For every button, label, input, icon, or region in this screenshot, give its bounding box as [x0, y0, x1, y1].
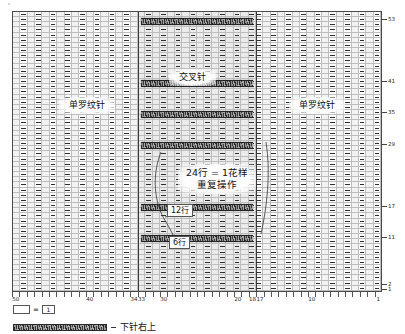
legend-dash-icon — [111, 327, 116, 328]
x-axis-tick-label: 33 — [138, 296, 145, 302]
blank-stitch-swatch — [13, 305, 30, 314]
x-axis-tick-label: 20 — [234, 296, 241, 302]
y-tick — [382, 19, 387, 20]
one-stitch-swatch: 1 — [42, 305, 55, 314]
x-axis-tick-label: 1 — [377, 296, 381, 302]
y-axis-tick-label: 41 — [388, 78, 395, 84]
label-left-rib: 单罗纹针 — [59, 97, 115, 114]
y-tick — [382, 81, 387, 82]
x-axis-labels: 5040343330201817101 — [12, 296, 382, 306]
artifact-speck — [8, 3, 10, 5]
y-axis-tick-label: 17 — [388, 203, 395, 209]
cable-stitch-swatch — [13, 324, 107, 331]
legend-cable-stitch: 下针右上 — [13, 322, 156, 332]
y-axis-tick-label: 35 — [388, 109, 395, 115]
label-right-rib: 单罗纹针 — [289, 97, 345, 114]
y-axis: 53413529171121 — [382, 11, 405, 292]
y-axis-tick-label: 29 — [388, 141, 395, 147]
x-axis-tick-label: 17 — [256, 296, 263, 302]
y-axis-tick-label: 11 — [388, 234, 395, 240]
x-axis-tick-label: 50 — [12, 296, 19, 302]
equals-sign: = — [33, 306, 39, 314]
label-repeat: 24行 = 1花样 重复操作 — [178, 164, 256, 194]
y-tick — [382, 284, 387, 285]
y-axis-tick-label: 53 — [388, 16, 395, 22]
label-repeat-line2: 重复操作 — [186, 179, 248, 191]
x-axis: 5040343330201817101 — [12, 292, 382, 298]
legend-blank-stitch: = 1 — [13, 305, 55, 314]
x-axis-tick-label: 18 — [249, 296, 256, 302]
x-axis-tick-label: 34 — [131, 296, 138, 302]
y-axis-tick-label: 1 — [388, 286, 392, 292]
x-axis-tick-label: 10 — [308, 296, 315, 302]
x-axis-tick-label: 40 — [86, 296, 93, 302]
label-rows-12: 12行 — [167, 204, 193, 217]
y-tick — [382, 289, 387, 290]
knitting-chart-page: 单罗纹针 交叉针 单罗纹针 24行 = 1花样 重复操作 12行 6行 5040… — [0, 0, 405, 334]
y-tick — [382, 112, 387, 113]
cable-stitch-label: 下针右上 — [120, 322, 156, 332]
label-repeat-line1: 24行 = 1花样 — [186, 167, 248, 179]
stitch-chart: 单罗纹针 交叉针 单罗纹针 24行 = 1花样 重复操作 12行 6行 — [12, 11, 382, 292]
x-axis-tick-label: 30 — [160, 296, 167, 302]
y-tick — [382, 206, 387, 207]
bracket-connectors — [13, 12, 382, 292]
y-tick — [382, 237, 387, 238]
label-center-cable: 交叉针 — [169, 69, 216, 86]
label-rows-6: 6行 — [169, 236, 190, 249]
y-tick — [382, 144, 387, 145]
